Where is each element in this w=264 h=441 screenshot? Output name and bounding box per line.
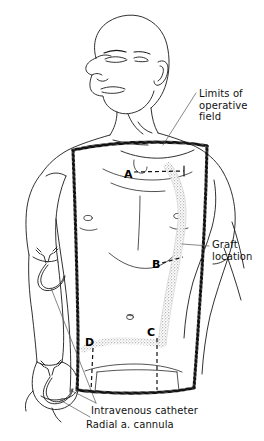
vascular-lines xyxy=(36,247,73,404)
marker-label-c: C xyxy=(147,327,155,338)
label-limits-line3: field xyxy=(199,111,221,122)
label-limits-of-operative-field: Limits of operative field xyxy=(199,88,248,123)
graft-location-band xyxy=(84,166,186,349)
marker-a-dash xyxy=(134,171,184,172)
torso-outline xyxy=(56,172,244,392)
marker-label-d: D xyxy=(85,337,94,348)
label-graft-location: Graft location xyxy=(212,239,252,262)
illustration-canvas xyxy=(0,0,264,441)
label-limits-line1: Limits of xyxy=(199,88,243,99)
marker-d-dash xyxy=(91,348,93,392)
neck-and-shoulders xyxy=(42,108,223,173)
label-intravenous-catheter: Intravenous catheter xyxy=(91,405,198,417)
label-graft-line1: Graft xyxy=(212,239,238,250)
marker-label-b: B xyxy=(152,259,160,270)
marker-label-a: A xyxy=(124,169,133,180)
label-limits-line2: operative xyxy=(199,100,248,111)
leader-radial xyxy=(60,400,90,417)
figure-container: Limits of operative field Graft location… xyxy=(0,0,264,441)
head-outline xyxy=(86,15,169,114)
label-graft-line2: location xyxy=(212,251,252,262)
label-radial-artery-cannula: Radial a. cannula xyxy=(86,419,174,431)
leader-limits xyxy=(163,93,196,145)
